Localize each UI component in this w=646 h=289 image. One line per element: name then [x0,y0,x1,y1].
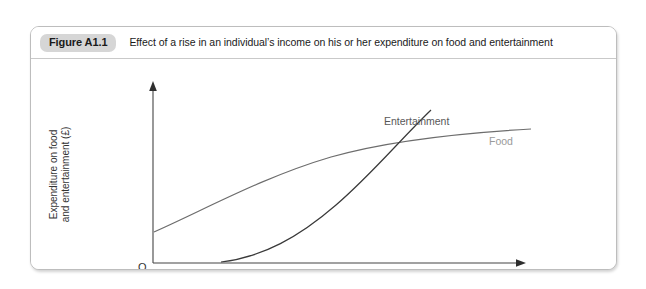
figure-card: Figure A1.1 Effect of a rise in an indiv… [30,26,617,270]
x-axis [153,259,526,267]
y-axis-label: Expenditure on food and entertainment (£… [48,95,71,255]
y-axis [149,81,157,263]
y-axis-label-line2: and entertainment (£) [59,95,71,255]
chart-svg [31,59,617,270]
food-curve [154,129,531,232]
origin-label: O [138,261,147,270]
figure-caption: Effect of a rise in an individual’s inco… [129,37,552,49]
plot-area: Expenditure on food and entertainment (£… [31,59,616,269]
figure-header: Figure A1.1 Effect of a rise in an indiv… [31,27,616,59]
y-axis-label-line1: Expenditure on food [48,95,60,255]
food-curve-label: Food [489,135,513,147]
figure-number-badge: Figure A1.1 [40,34,116,52]
entertainment-curve-label: Entertainment [384,115,449,127]
y-axis-arrowhead [149,81,157,91]
x-axis-arrowhead [516,259,526,267]
